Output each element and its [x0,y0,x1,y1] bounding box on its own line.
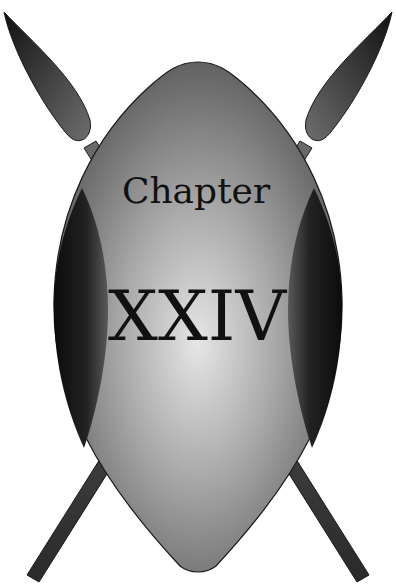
chapter-emblem: Chapter XXIV [0,0,396,587]
left-spear-blade [4,12,91,141]
right-spear-blade [305,12,392,141]
chapter-number: XXIV [108,275,287,357]
chapter-heading: Chapter [122,170,271,211]
